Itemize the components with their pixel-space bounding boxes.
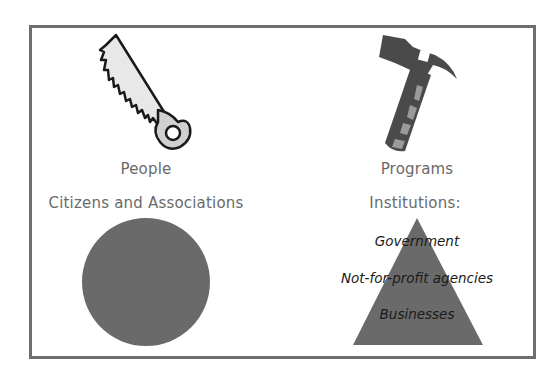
people-circle [82,218,212,348]
hammer-icon [375,35,470,155]
pyramid-item-nonprofit: Not-for-profit agencies [327,270,507,286]
programs-label: Programs [367,160,467,178]
saw-icon [98,30,198,155]
pyramid-item-government: Government [352,233,482,249]
citizens-associations-label: Citizens and Associations [20,194,272,212]
pyramid-item-businesses: Businesses [352,306,482,322]
people-label: People [96,160,196,178]
institutions-label: Institutions: [345,194,485,212]
